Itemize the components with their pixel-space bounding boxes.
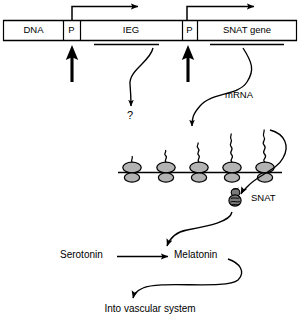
diagram-vector-layer bbox=[0, 0, 300, 323]
ieg-label: IEG bbox=[80, 25, 182, 35]
figure-canvas: DNA P IEG P SNAT gene ? mRNA SNAT Seroto… bbox=[0, 0, 300, 323]
transcription-start-arrow-1 bbox=[72, 7, 138, 21]
nascent-chain-2 bbox=[165, 150, 167, 162]
serotonin-label: Serotonin bbox=[60, 250, 103, 260]
snat-gene-label: SNAT gene bbox=[197, 25, 297, 35]
ieg-to-unknown-arrow bbox=[130, 48, 153, 106]
melatonin-label: Melatonin bbox=[174, 250, 217, 260]
promoter-2-label: P bbox=[182, 25, 197, 35]
melatonin-to-vascular-arrow bbox=[133, 259, 242, 298]
unknown-pathway-label: ? bbox=[127, 110, 133, 121]
snat-gene-to-mrna-arrow bbox=[192, 48, 252, 126]
signal-arrow-2 bbox=[182, 45, 194, 82]
ribosome-2 bbox=[157, 150, 175, 182]
ribosome-3 bbox=[190, 143, 208, 183]
ribosome-1 bbox=[123, 156, 141, 182]
snat-protein-glyph bbox=[229, 188, 241, 206]
nascent-chain-4 bbox=[230, 134, 232, 163]
mrna-label: mRNA bbox=[225, 90, 253, 100]
ribosome-4 bbox=[223, 134, 241, 183]
snat-to-reaction-arrow bbox=[167, 212, 232, 246]
promoter-1-label: P bbox=[63, 25, 80, 35]
snat-protein-label: SNAT bbox=[251, 193, 276, 203]
dna-segment-label-dna: DNA bbox=[4, 25, 63, 35]
signal-arrow-1 bbox=[66, 45, 78, 82]
transcription-start-arrow-2 bbox=[187, 7, 254, 21]
nascent-chain-3 bbox=[197, 143, 199, 163]
nascent-chain-5 bbox=[263, 130, 266, 163]
nascent-chain-1 bbox=[132, 156, 133, 162]
vascular-system-label: Into vascular system bbox=[0, 304, 300, 314]
